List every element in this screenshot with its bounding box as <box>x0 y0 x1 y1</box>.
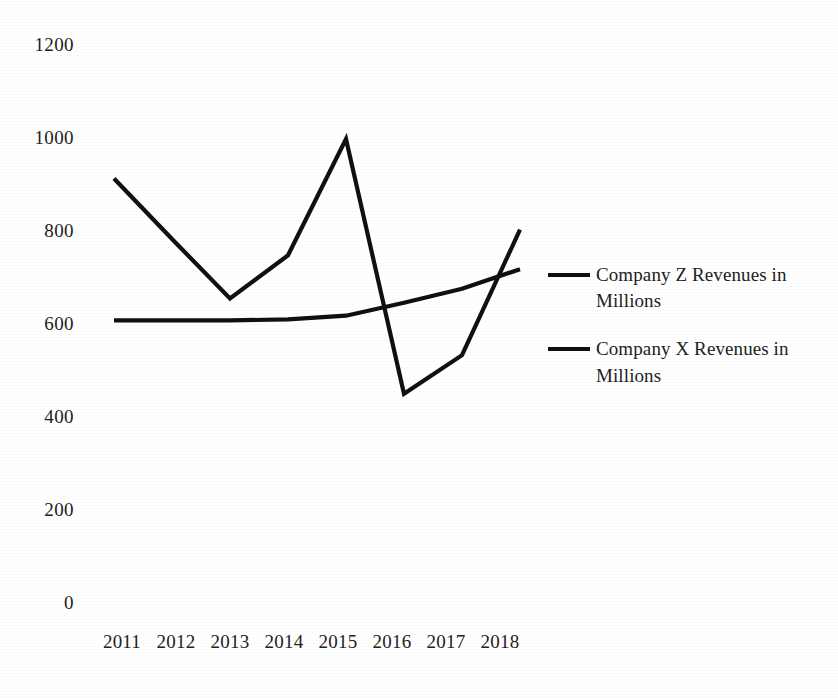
series-line-company-z <box>114 269 520 320</box>
x-axis-tick-label: 2011 <box>93 632 151 651</box>
legend-item-company-z: Company Z Revenues in Millions <box>548 262 828 314</box>
series-line-company-x <box>114 139 520 394</box>
chart-legend: Company Z Revenues in Millions Company X… <box>548 262 828 411</box>
legend-item-label-cont: Millions <box>596 363 828 389</box>
legend-line-swatch-icon <box>548 273 590 277</box>
x-axis-tick-label: 2017 <box>417 632 475 651</box>
legend-item-label: Company Z Revenues in <box>596 262 828 288</box>
legend-item-label-cont: Millions <box>596 288 828 314</box>
x-axis-tick-label: 2012 <box>147 632 205 651</box>
legend-line-swatch-icon <box>548 347 590 351</box>
legend-item-company-x: Company X Revenues in Millions <box>548 336 828 388</box>
x-axis-tick-label: 2016 <box>363 632 421 651</box>
x-axis-tick-label: 2013 <box>201 632 259 651</box>
x-axis-tick-label: 2015 <box>309 632 367 651</box>
x-axis-tick-label: 2018 <box>471 632 529 651</box>
line-chart: 1200 1000 800 600 400 200 0 2011 2012 20… <box>0 0 838 698</box>
legend-item-label: Company X Revenues in <box>596 336 828 362</box>
x-axis-tick-label: 2014 <box>255 632 313 651</box>
